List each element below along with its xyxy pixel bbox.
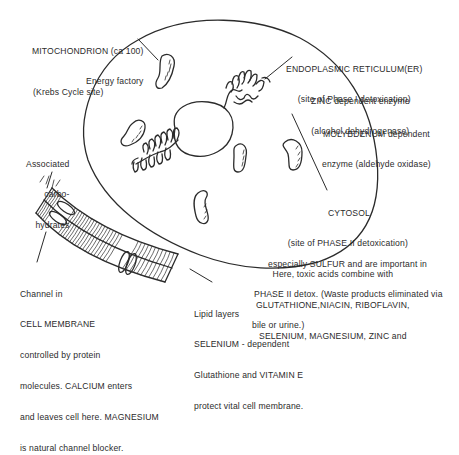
mitochondrion (121, 120, 145, 146)
mitochondrion (194, 191, 208, 224)
lipid-tail (92, 223, 100, 235)
lipid-tail (106, 231, 114, 243)
lipid-tail (115, 235, 122, 248)
lipid-tail (89, 222, 97, 234)
mitochondrion (156, 54, 174, 88)
krebs-cycle-label: (Krebs Cycle site) (33, 66, 104, 117)
endoplasmic-reticulum-lower (132, 128, 179, 172)
lipid-tail (95, 225, 103, 237)
lipid-tail (131, 241, 138, 254)
molybdenum-enzyme-label: MOLYBDENUM dependent enzyme (aldehyde ox… (322, 108, 431, 190)
lipid-tail (103, 246, 112, 260)
lipid-tail (87, 220, 95, 232)
lipid-tail (109, 232, 117, 245)
lipid-tail (164, 252, 170, 266)
lipid-tail (103, 229, 111, 241)
lipid-tail (97, 226, 105, 238)
lipid-tail (112, 233, 120, 246)
carbohydrates-label: Associated carbo- hydrates (26, 138, 70, 251)
nucleus (174, 102, 233, 157)
endoplasmic-reticulum-upper (224, 70, 270, 108)
lipid-tail (138, 244, 145, 257)
cell-membrane-channel-label: Channel in CELL MEMBRANE controlled by p… (20, 268, 159, 455)
mitochondrion (234, 144, 247, 172)
lipid-tail (100, 228, 108, 240)
lipid-layers-label: Lipid layers SELENIUM - dependent Glutat… (194, 288, 303, 432)
mitochondrion (283, 140, 302, 170)
lipid-tail (106, 247, 115, 261)
